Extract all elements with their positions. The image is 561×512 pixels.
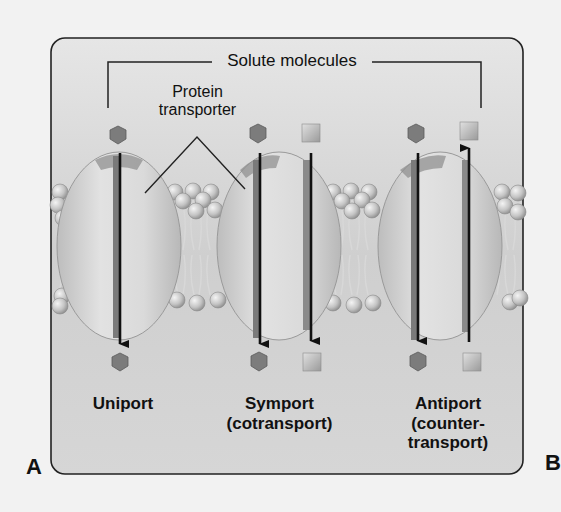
panel-letter-a: A	[26, 454, 42, 480]
protein-transporter-label-line1: Protein	[140, 83, 255, 101]
antiport-label-line3: transport)	[388, 433, 508, 453]
uniport-label: Uniport	[68, 394, 178, 414]
uniport-label-line1: Uniport	[68, 394, 178, 414]
symport-label: Symport (cotransport)	[212, 394, 347, 433]
square-solute-icon	[463, 353, 481, 371]
panel-letter-b: B	[545, 450, 561, 476]
solute-molecules-label: Solute molecules	[212, 51, 372, 71]
square-solute-icon	[460, 122, 478, 140]
square-solute-icon	[302, 124, 320, 142]
protein-transporter-label: Protein transporter	[140, 83, 255, 120]
antiport-label-line1: Antiport	[388, 394, 508, 414]
symport-label-line1: Symport	[212, 394, 347, 414]
symport-label-line2: (cotransport)	[212, 414, 347, 434]
antiport-label-line2: (counter-	[388, 414, 508, 434]
protein-antiport	[378, 152, 502, 340]
square-solute-icon	[303, 353, 321, 371]
protein-symport	[217, 152, 341, 340]
antiport-label: Antiport (counter- transport)	[388, 394, 508, 453]
protein-transporter-label-line2: transporter	[140, 101, 255, 119]
